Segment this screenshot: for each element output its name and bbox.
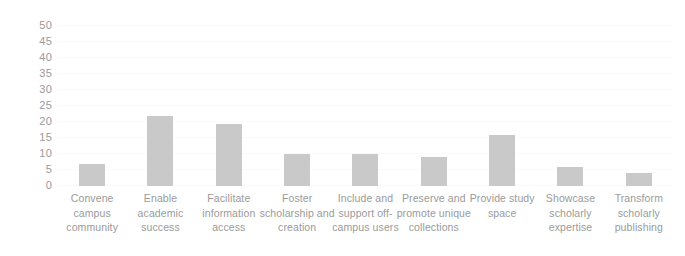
y-axis-tick-label: 20 — [26, 116, 52, 127]
x-axis-label: Provide study space — [464, 191, 540, 220]
x-axis-label: Preserve and promote unique collections — [396, 191, 472, 235]
bar-chart: 50454035302520151050 Convene campus comm… — [0, 0, 685, 256]
x-axis-label: Enable academic success — [122, 191, 198, 235]
bar[interactable] — [352, 154, 378, 186]
y-axis-tick-label: 5 — [26, 164, 52, 175]
bar[interactable] — [284, 154, 310, 186]
bar-slot — [126, 25, 194, 186]
y-axis-tick-label: 35 — [26, 68, 52, 79]
bar[interactable] — [216, 124, 242, 186]
y-axis-tick-label: 10 — [26, 148, 52, 159]
y-axis-tick-label: 40 — [26, 52, 52, 63]
bar-slot — [58, 25, 126, 186]
bars-layer — [58, 25, 673, 186]
bar-slot — [400, 25, 468, 186]
bar-slot — [468, 25, 536, 186]
y-axis-tick-label: 0 — [26, 180, 52, 191]
bar[interactable] — [489, 135, 515, 186]
bar[interactable] — [421, 157, 447, 186]
y-axis-tick-label: 50 — [26, 20, 52, 31]
y-axis-tick-label: 25 — [26, 100, 52, 111]
x-axis-label: Transform scholarly publishing — [601, 191, 677, 235]
y-axis-tick-label: 45 — [26, 36, 52, 47]
bar[interactable] — [626, 173, 652, 186]
bar[interactable] — [79, 164, 105, 186]
bar[interactable] — [557, 167, 583, 186]
bar-slot — [536, 25, 604, 186]
x-axis-label: Include and support off-campus users — [327, 191, 403, 235]
y-axis: 50454035302520151050 — [26, 17, 52, 189]
x-axis-label: Facilitate information access — [191, 191, 267, 235]
bar-slot — [195, 25, 263, 186]
bar-slot — [331, 25, 399, 186]
x-axis-label: Convene campus community — [54, 191, 130, 235]
y-axis-tick-label: 15 — [26, 132, 52, 143]
x-axis-label: Showcase scholarly expertise — [532, 191, 608, 235]
bar-slot — [605, 25, 673, 186]
y-axis-tick-label: 30 — [26, 84, 52, 95]
x-axis-category-labels: Convene campus communityEnable academic … — [58, 191, 673, 253]
x-axis-label: Foster scholarship and creation — [259, 191, 335, 235]
bar[interactable] — [147, 116, 173, 186]
bar-slot — [263, 25, 331, 186]
